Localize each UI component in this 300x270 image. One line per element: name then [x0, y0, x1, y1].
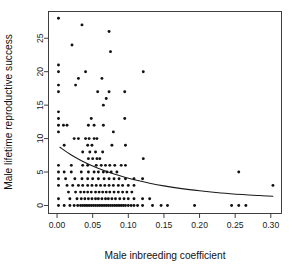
data-point	[63, 204, 66, 207]
x-tick-label: 0.15	[156, 220, 173, 230]
data-point	[96, 137, 99, 140]
data-point	[57, 84, 60, 87]
data-point	[110, 144, 113, 147]
data-point	[99, 184, 102, 187]
data-point	[76, 204, 79, 207]
data-point	[136, 204, 139, 207]
data-point	[57, 177, 60, 180]
data-point	[133, 184, 136, 187]
data-point	[87, 171, 90, 174]
data-point	[98, 157, 101, 160]
data-point	[124, 204, 127, 207]
data-point	[113, 177, 116, 180]
data-point	[91, 197, 94, 200]
data-point	[81, 23, 84, 26]
data-point	[127, 184, 130, 187]
data-point	[97, 171, 100, 174]
data-point	[86, 184, 89, 187]
data-point	[73, 177, 76, 180]
data-point	[73, 137, 76, 140]
data-point	[57, 130, 60, 133]
data-point	[108, 90, 111, 93]
data-point	[102, 124, 105, 127]
data-point	[193, 204, 196, 207]
data-point	[103, 184, 106, 187]
plot-canvas: 0.000.050.100.150.200.250.30 0510152025 …	[0, 0, 300, 270]
data-point	[101, 191, 104, 194]
y-tick-label: 0	[35, 203, 45, 208]
data-point	[237, 204, 240, 207]
data-point	[118, 197, 121, 200]
data-point	[141, 177, 144, 180]
data-point	[102, 104, 105, 107]
data-point	[127, 204, 130, 207]
data-point	[133, 197, 136, 200]
data-point	[166, 204, 169, 207]
data-point	[95, 164, 98, 167]
x-tick-label: 0.20	[191, 220, 208, 230]
data-point	[142, 157, 145, 160]
data-point	[230, 204, 233, 207]
data-point	[112, 184, 115, 187]
data-point	[66, 184, 69, 187]
data-point	[108, 30, 111, 33]
data-point	[84, 70, 87, 73]
data-point	[77, 184, 80, 187]
data-point	[68, 197, 71, 200]
data-point	[86, 191, 89, 194]
data-point	[88, 137, 91, 140]
data-point	[70, 171, 73, 174]
data-point	[79, 191, 82, 194]
data-point	[87, 157, 90, 160]
data-point	[130, 191, 133, 194]
data-point	[68, 204, 71, 207]
data-point	[151, 204, 154, 207]
data-point	[77, 77, 80, 80]
data-point	[123, 90, 126, 93]
data-point	[105, 191, 108, 194]
data-point	[81, 151, 84, 154]
data-point	[97, 177, 100, 180]
data-point	[104, 197, 107, 200]
data-point	[124, 144, 127, 147]
data-point	[76, 197, 79, 200]
data-point	[123, 197, 126, 200]
data-point	[63, 171, 66, 174]
data-point	[81, 184, 84, 187]
data-point	[66, 124, 69, 127]
data-point	[141, 204, 144, 207]
data-point	[87, 124, 90, 127]
data-point	[130, 204, 133, 207]
data-point	[100, 197, 103, 200]
data-point	[74, 84, 77, 87]
data-point	[113, 191, 116, 194]
data-point	[141, 197, 144, 200]
data-point	[95, 184, 98, 187]
y-tick-label: 15	[35, 100, 45, 110]
data-point	[121, 191, 124, 194]
data-point	[88, 151, 91, 154]
data-point	[133, 204, 136, 207]
data-point	[100, 77, 103, 80]
y-tick-label: 10	[35, 134, 45, 144]
data-point	[103, 177, 106, 180]
data-point	[112, 130, 115, 133]
data-point	[87, 197, 90, 200]
data-point	[125, 191, 128, 194]
data-point	[118, 177, 121, 180]
data-point	[57, 164, 60, 167]
data-point	[104, 164, 107, 167]
y-tick-label: 20	[35, 67, 45, 77]
data-point	[91, 157, 94, 160]
data-point	[86, 144, 89, 147]
data-point	[160, 204, 163, 207]
data-point	[80, 197, 83, 200]
data-point	[94, 151, 97, 154]
data-point	[86, 177, 89, 180]
data-point	[120, 164, 123, 167]
data-point	[71, 184, 74, 187]
data-point	[81, 164, 84, 167]
data-point	[84, 137, 87, 140]
data-point	[117, 184, 120, 187]
data-point	[63, 144, 66, 147]
